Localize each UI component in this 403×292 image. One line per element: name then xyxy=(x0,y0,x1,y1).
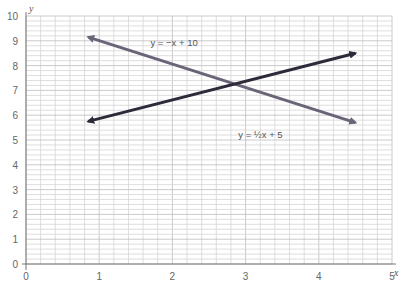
y-tick-label: 3 xyxy=(12,185,18,196)
grid-lines xyxy=(26,16,392,264)
x-tick-label: 0 xyxy=(23,271,29,282)
tick-labels: 012345012345678910 xyxy=(7,11,395,282)
y-tick-label: 7 xyxy=(12,85,18,96)
x-tick-label: 5 xyxy=(389,271,395,282)
y-tick-label: 2 xyxy=(12,209,18,220)
y-tick-label: 0 xyxy=(12,259,18,270)
y-axis-label: y xyxy=(28,3,34,14)
line-chart: yx 012345012345678910 y = −x + 10y = ½x … xyxy=(0,0,403,292)
y-tick-label: 6 xyxy=(12,110,18,121)
x-tick-label: 2 xyxy=(170,271,176,282)
y-tick-label: 8 xyxy=(12,61,18,72)
y-tick-label: 5 xyxy=(12,135,18,146)
equation-label: y = −x + 10 xyxy=(150,37,197,48)
y-tick-label: 4 xyxy=(12,160,18,171)
y-tick-label: 10 xyxy=(7,11,19,22)
x-tick-label: 1 xyxy=(96,271,102,282)
x-tick-label: 4 xyxy=(316,271,322,282)
axes: yx xyxy=(22,3,399,278)
equation-label: y = ½x + 5 xyxy=(238,129,282,140)
y-tick-label: 1 xyxy=(12,234,18,245)
y-tick-label: 9 xyxy=(12,36,18,47)
x-tick-label: 3 xyxy=(243,271,249,282)
